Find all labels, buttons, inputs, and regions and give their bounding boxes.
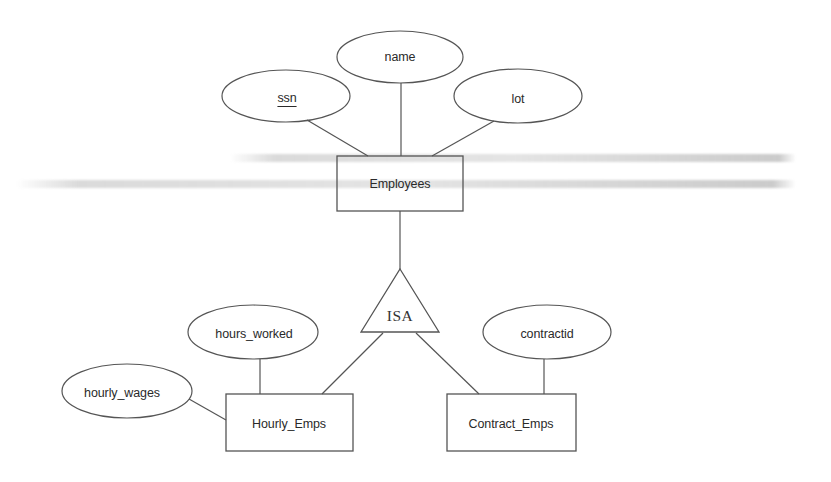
attribute-ssn-label: ssn — [277, 91, 296, 105]
edges-layer — [189, 83, 544, 420]
edge-ssn-employees — [307, 120, 368, 156]
edge-lot-employees — [432, 121, 494, 156]
edge-isa-hourly_emps — [322, 333, 383, 394]
entity-employees-label: Employees — [370, 177, 431, 191]
entities-layer — [226, 156, 576, 451]
attribute-name-label: name — [385, 50, 416, 64]
isa-label: ISA — [387, 307, 413, 325]
attribute-contractid-label: contractid — [520, 327, 573, 341]
attribute-hourly-wages-label: hourly_wages — [84, 386, 160, 400]
er-diagram-svg — [0, 0, 831, 482]
attribute-lot-label: lot — [512, 92, 525, 106]
entity-contract-emps-label: Contract_Emps — [469, 417, 554, 431]
entity-hourly-emps-label: Hourly_Emps — [252, 417, 326, 431]
edge-hourly_wages-hourly_emps — [189, 399, 226, 420]
er-diagram-canvas: Employees Hourly_Emps Contract_Emps ssn … — [0, 0, 831, 482]
attributes-layer — [62, 31, 611, 418]
attribute-hours-worked-label: hours_worked — [215, 327, 292, 341]
edge-isa-contract_emps — [416, 333, 479, 394]
